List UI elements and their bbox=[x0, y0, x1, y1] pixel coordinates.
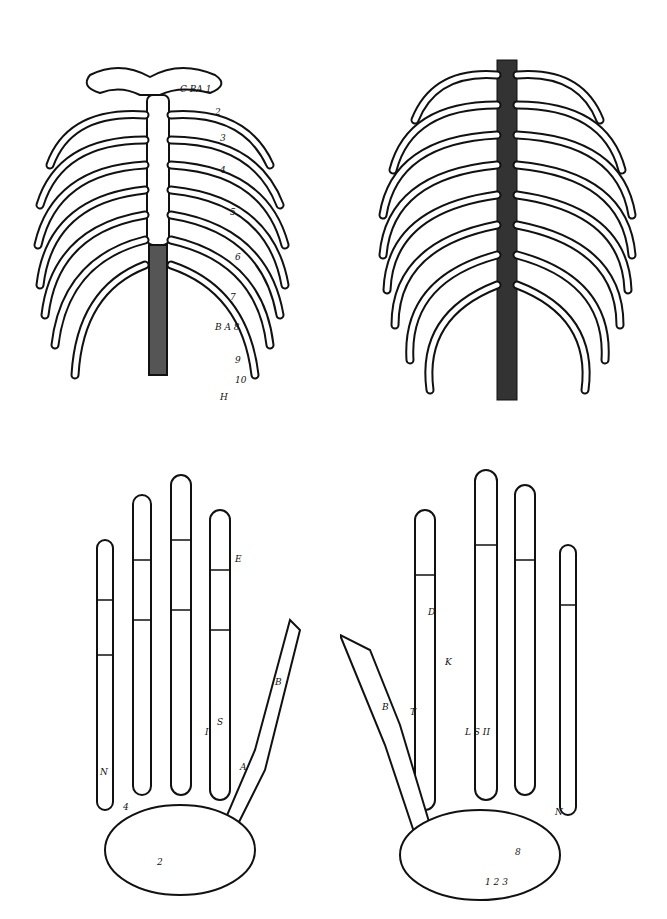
svg-text:9: 9 bbox=[235, 355, 241, 365]
svg-text:A: A bbox=[239, 762, 247, 772]
svg-text:5: 5 bbox=[230, 207, 236, 217]
hand-palmar-figure: D K B T L S II N 8 1 2 3 bbox=[340, 465, 605, 910]
svg-text:T: T bbox=[410, 707, 417, 717]
svg-text:B A 8: B A 8 bbox=[214, 322, 240, 332]
svg-text:7: 7 bbox=[230, 292, 236, 302]
svg-text:3: 3 bbox=[220, 133, 226, 143]
hand-dorsal-figure: E B A S I N 4 2 bbox=[85, 470, 305, 910]
svg-text:8: 8 bbox=[515, 847, 521, 857]
svg-text:S: S bbox=[217, 717, 223, 727]
thorax-posterior-figure bbox=[375, 50, 640, 410]
svg-text:10: 10 bbox=[235, 375, 247, 385]
svg-text:2: 2 bbox=[214, 107, 221, 117]
svg-text:6: 6 bbox=[235, 252, 241, 262]
svg-text:N: N bbox=[554, 807, 564, 817]
svg-text:4: 4 bbox=[122, 802, 129, 812]
svg-text:N: N bbox=[99, 767, 109, 777]
svg-text:K: K bbox=[444, 657, 453, 667]
thorax-anterior-figure: C BA 1 2 3 4 5 6 7 B A 8 9 10 H bbox=[30, 55, 290, 405]
svg-text:D: D bbox=[427, 607, 435, 617]
svg-text:B: B bbox=[274, 677, 282, 687]
svg-text:4: 4 bbox=[219, 165, 226, 175]
svg-text:B: B bbox=[381, 702, 389, 712]
svg-text:1 2 3: 1 2 3 bbox=[485, 877, 508, 887]
svg-text:H: H bbox=[219, 392, 228, 402]
svg-text:C BA 1: C BA 1 bbox=[180, 84, 211, 94]
svg-text:2: 2 bbox=[156, 857, 163, 867]
svg-text:I: I bbox=[204, 727, 209, 737]
svg-text:E: E bbox=[234, 554, 242, 564]
svg-text:L S II: L S II bbox=[464, 727, 490, 737]
